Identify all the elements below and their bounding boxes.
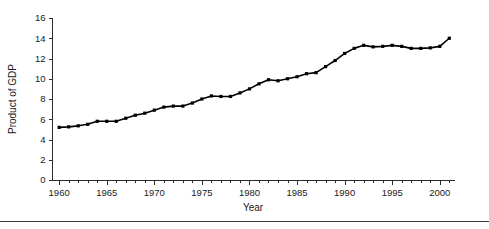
data-point-marker [324,65,327,68]
x-tick-label: 1960 [49,187,70,198]
data-point-marker [276,79,279,82]
data-point-marker [429,46,432,49]
y-tick-label: 16 [35,12,46,23]
data-point-marker [153,109,156,112]
y-tick-label: 10 [35,73,46,84]
x-tick-label: 2000 [429,187,450,198]
y-axis-title: Product of GDP [7,64,18,134]
data-point-marker [248,87,251,90]
x-tick-label: 1990 [334,187,355,198]
data-point-marker [381,45,384,48]
data-point-marker [372,45,375,48]
x-tick-label: 1995 [382,187,403,198]
data-point-marker [305,72,308,75]
data-series-markers [58,37,451,129]
data-point-marker [334,59,337,62]
data-point-marker [448,37,451,40]
data-point-marker [400,45,403,48]
data-point-marker [191,101,194,104]
data-point-marker [219,95,222,98]
data-point-marker [391,44,394,47]
data-point-marker [200,97,203,100]
data-point-marker [162,106,165,109]
data-point-marker [238,91,241,94]
data-point-marker [353,47,356,50]
footer-divider [0,221,489,222]
data-point-marker [115,120,118,123]
data-point-marker [86,123,89,126]
data-point-marker [362,44,365,47]
data-point-marker [143,112,146,115]
data-point-marker [229,95,232,98]
axis-frame [53,18,456,181]
data-point-marker [210,94,213,97]
data-point-marker [105,120,108,123]
y-tick-label: 6 [40,114,45,125]
y-tick-label: 8 [40,93,45,104]
y-tick-label: 4 [40,134,45,145]
data-point-marker [286,77,289,80]
line-chart: 0246810121416 19601965197019751980198519… [0,0,489,229]
data-series-line [59,38,449,127]
data-point-marker [96,120,99,123]
y-tick-label: 14 [35,33,46,44]
x-tick-label: 1965 [96,187,117,198]
x-tick-label: 1980 [239,187,260,198]
data-point-marker [343,52,346,55]
data-point-marker [257,82,260,85]
data-point-marker [124,117,127,120]
data-point-marker [410,47,413,50]
x-tick-label: 1970 [144,187,165,198]
data-point-marker [172,104,175,107]
figure-container: 0246810121416 19601965197019751980198519… [0,0,489,229]
x-tick-label: 1985 [286,187,307,198]
x-axis-title: Year [243,202,264,213]
y-tick-label: 12 [35,53,46,64]
data-point-marker [181,104,184,107]
y-tick-label: 0 [40,174,45,185]
data-point-marker [134,114,137,117]
data-point-marker [438,45,441,48]
y-tick-label: 2 [40,154,45,165]
x-axis-ticks: 196019651970197519801985199019952000 [49,180,451,198]
data-point-marker [58,126,61,129]
data-point-marker [267,78,270,81]
data-point-marker [295,75,298,78]
x-tick-label: 1975 [191,187,212,198]
y-axis-ticks: 0246810121416 [35,12,53,185]
data-point-marker [67,125,70,128]
data-point-marker [419,47,422,50]
data-point-marker [77,124,80,127]
data-point-marker [314,71,317,74]
